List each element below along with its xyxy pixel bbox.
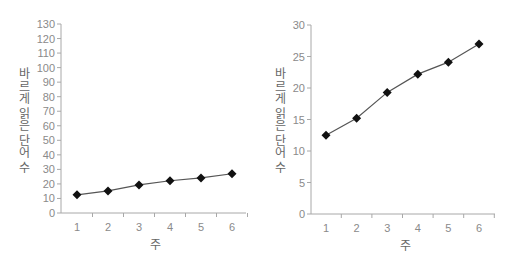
y-tick-label: 40 xyxy=(43,149,55,161)
data-point-marker xyxy=(475,39,484,48)
x-tick-label: 1 xyxy=(323,222,329,234)
y-axis-title-char: 게 xyxy=(275,92,286,106)
data-point-marker xyxy=(444,58,453,67)
x-tick-label: 6 xyxy=(476,222,482,234)
y-tick-label: 130 xyxy=(37,18,55,30)
y-tick-label: 10 xyxy=(293,145,305,157)
y-tick-label: 20 xyxy=(43,178,55,190)
chart-left: 0102030405060708090100110120130123456주바르… xyxy=(19,18,248,252)
chart-right: 051015202530123456주바르게읽은단어수 xyxy=(275,19,496,253)
data-point-marker xyxy=(135,180,144,189)
y-axis-title-char: 게 xyxy=(19,92,30,106)
x-tick-label: 4 xyxy=(167,221,173,233)
x-tick-label: 3 xyxy=(384,222,390,234)
data-point-marker xyxy=(228,169,237,178)
y-axis-title-char: 어 xyxy=(275,146,286,160)
y-tick-label: 100 xyxy=(37,62,55,74)
data-point-marker xyxy=(322,131,331,140)
data-point-marker xyxy=(104,186,113,195)
y-axis-title: 바르게읽은단어수 xyxy=(19,67,30,175)
y-tick-label: 25 xyxy=(293,51,305,63)
y-tick-label: 110 xyxy=(37,47,55,59)
x-tick-label: 5 xyxy=(445,222,451,234)
data-point-marker xyxy=(413,70,422,79)
y-axis-title-char: 어 xyxy=(19,146,30,160)
series-line xyxy=(77,174,232,195)
series-line xyxy=(326,44,479,135)
x-axis-title: 주 xyxy=(400,239,411,253)
y-tick-label: 15 xyxy=(293,114,305,126)
y-tick-label: 0 xyxy=(49,207,55,219)
x-tick-label: 2 xyxy=(354,222,360,234)
y-tick-label: 0 xyxy=(299,208,305,220)
y-tick-label: 30 xyxy=(293,19,305,31)
y-tick-label: 80 xyxy=(43,91,55,103)
charts-canvas: 0102030405060708090100110120130123456주바르… xyxy=(0,0,510,270)
x-tick-label: 5 xyxy=(198,221,204,233)
data-point-marker xyxy=(197,173,206,182)
y-axis-title-char: 수 xyxy=(275,161,286,175)
y-axis-title-char: 은 xyxy=(275,119,286,133)
y-axis-title-char: 수 xyxy=(19,161,30,175)
y-tick-label: 120 xyxy=(37,33,55,45)
y-axis-title: 바르게읽은단어수 xyxy=(275,67,286,175)
y-axis-title-char: 은 xyxy=(19,119,30,133)
x-tick-label: 6 xyxy=(229,221,235,233)
y-tick-label: 70 xyxy=(43,105,55,117)
x-tick-label: 2 xyxy=(105,221,111,233)
y-tick-label: 30 xyxy=(43,163,55,175)
x-axis-title: 주 xyxy=(150,238,161,252)
data-point-marker xyxy=(166,176,175,185)
x-tick-label: 4 xyxy=(415,222,421,234)
y-tick-label: 5 xyxy=(299,177,305,189)
y-tick-label: 90 xyxy=(43,76,55,88)
y-tick-label: 50 xyxy=(43,134,55,146)
y-tick-label: 20 xyxy=(293,82,305,94)
x-tick-label: 3 xyxy=(136,221,142,233)
y-tick-label: 10 xyxy=(43,192,55,204)
data-point-marker xyxy=(73,190,82,199)
y-tick-label: 60 xyxy=(43,120,55,132)
x-tick-label: 1 xyxy=(74,221,80,233)
